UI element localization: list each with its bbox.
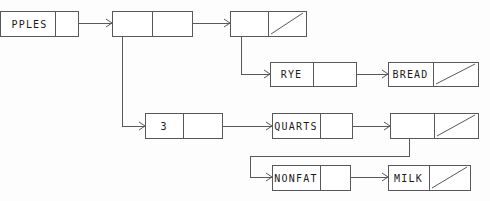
node-milk: MILK	[389, 166, 471, 191]
node-rye-label: RYE	[281, 69, 303, 80]
node-three: 3	[146, 114, 223, 139]
connector-nonfat-to-milk	[350, 173, 388, 181]
node-rye: RYE	[271, 63, 357, 87]
diagram-canvas: PPLESRYEBREAD3QUARTSNONFATMILK	[0, 0, 490, 201]
node-milk-label: MILK	[394, 173, 423, 184]
connector-head-down-to-three-line	[122, 36, 145, 126]
connector-three-to-quarts	[222, 122, 272, 130]
node-quarts-label: QUARTS	[274, 121, 317, 132]
node-apples: PPLES	[1, 12, 79, 37]
connectors-layer	[78, 19, 409, 181]
connector-quarts-to-parent	[352, 122, 390, 130]
linked-list-diagram: PPLESRYEBREAD3QUARTSNONFATMILK	[0, 0, 490, 201]
node-second	[231, 12, 307, 37]
connector-rye-to-bread	[356, 70, 388, 78]
node-three-label: 3	[160, 121, 167, 132]
node-nonfat-label: NONFAT	[274, 173, 317, 184]
connector-second-down-to-rye-line	[241, 36, 270, 74]
node-nonfat: NONFAT	[273, 166, 351, 191]
connector-apples-to-head	[78, 19, 112, 27]
nodes-layer: PPLESRYEBREAD3QUARTSNONFATMILK	[1, 12, 479, 191]
node-bread: BREAD	[389, 63, 479, 87]
node-milk-parent	[391, 114, 479, 139]
connector-head-down-to-three	[122, 36, 145, 130]
node-head	[113, 12, 193, 37]
connector-second-down-to-rye	[241, 36, 270, 78]
connector-head-to-second	[192, 19, 230, 27]
node-quarts: QUARTS	[273, 114, 353, 139]
node-apples-label: PPLES	[11, 19, 47, 30]
node-bread-label: BREAD	[392, 69, 428, 80]
